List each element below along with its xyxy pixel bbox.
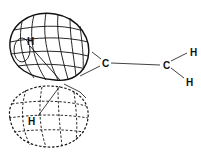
- h-upper-label: H: [27, 36, 34, 47]
- carbon-2-label: C: [163, 60, 170, 71]
- h-lower-label: H: [28, 116, 35, 127]
- lower-lobe: [9, 86, 88, 147]
- carbon-1-label: C: [102, 58, 109, 69]
- h-right-bottom-label: H: [186, 77, 193, 88]
- orbital-diagram: C C H H H H: [0, 0, 201, 155]
- upper-lobe: [10, 13, 89, 80]
- h-right-top-label: H: [190, 47, 197, 58]
